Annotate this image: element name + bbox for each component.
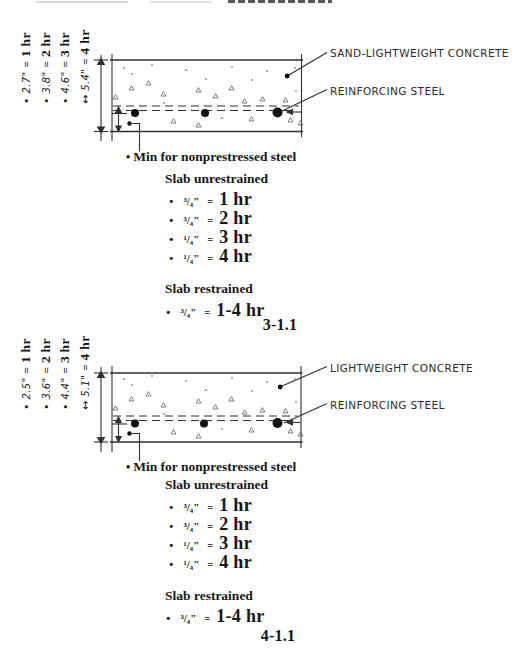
leader-cover-note bbox=[127, 121, 139, 151]
equals-sign: = bbox=[40, 61, 52, 67]
bullet: • bbox=[168, 520, 175, 533]
bullet: • bbox=[168, 501, 175, 514]
cover-note: •Min for nonprestressed steel bbox=[126, 459, 296, 475]
thickness-rating-rotated: • 3.8" = 2 hr bbox=[38, 12, 53, 104]
figure-number: 3-1.1 bbox=[250, 316, 310, 334]
cover-rating-item: • ¹/₄" = 3 hr bbox=[168, 227, 252, 247]
rebar-dots bbox=[131, 418, 283, 428]
equals-sign: = bbox=[207, 234, 213, 245]
unrestrained-heading: Slab unrestrained bbox=[165, 477, 268, 493]
restrained-heading: Slab restrained bbox=[165, 588, 253, 604]
thickness-value: 3.6" bbox=[41, 377, 52, 399]
fire-rating: 4 hr bbox=[77, 336, 93, 361]
equals-sign: = bbox=[207, 196, 213, 207]
header-fragment bbox=[36, 1, 128, 3]
cover-value: ³/₄" bbox=[184, 501, 200, 513]
cover-value: ³/₄" bbox=[184, 214, 200, 226]
bullet: • bbox=[59, 98, 72, 105]
fire-rating: 1 hr bbox=[219, 189, 252, 210]
slab-section-drawing bbox=[88, 358, 333, 470]
thickness-value: 3.8" bbox=[41, 71, 52, 93]
cover-note-text: Min for nonprestressed steel bbox=[133, 149, 296, 164]
dimension-line bbox=[94, 367, 108, 452]
slab-outline bbox=[110, 366, 303, 452]
equals-sign: = bbox=[204, 613, 210, 624]
bullet: • bbox=[168, 233, 175, 246]
cover-rating-item: • ³/₄" = 1-4 hr bbox=[165, 606, 265, 626]
equals-sign: = bbox=[20, 367, 32, 373]
aggregate-texture bbox=[113, 64, 303, 127]
bullet: • bbox=[20, 98, 33, 105]
leader-steel bbox=[284, 404, 327, 425]
leader-concrete bbox=[278, 367, 327, 390]
bullet: • bbox=[126, 460, 130, 474]
bullet: • bbox=[168, 539, 175, 552]
cover-rating-item: • ¹/₄" = 4 hr bbox=[168, 552, 252, 572]
reinforcing-steel-label: REINFORCING STEEL bbox=[330, 399, 445, 411]
bullet: • bbox=[168, 252, 175, 265]
thickness-value: 4.4" bbox=[60, 377, 71, 399]
equals-sign: = bbox=[59, 61, 71, 67]
fire-rating: 2 hr bbox=[38, 338, 54, 363]
equals-sign: = bbox=[207, 253, 213, 264]
rebar-dots bbox=[131, 108, 283, 118]
fire-rating: 4 hr bbox=[219, 552, 252, 573]
fire-rating: 2 hr bbox=[219, 208, 252, 229]
restrained-heading: Slab restrained bbox=[165, 281, 253, 297]
aggregate-texture bbox=[113, 375, 303, 438]
bullet: • bbox=[126, 150, 130, 164]
cover-value: ³/₄" bbox=[181, 612, 197, 624]
fire-rating: 1 hr bbox=[18, 32, 34, 57]
cover-value: ¹/₄" bbox=[184, 233, 200, 245]
bullet: • bbox=[165, 612, 172, 625]
bullet: • bbox=[168, 558, 175, 571]
leader-cover-note bbox=[127, 431, 139, 461]
figure-number: 4-1.1 bbox=[248, 627, 308, 645]
bullet: • bbox=[168, 195, 175, 208]
equals-sign: = bbox=[40, 367, 52, 373]
equals-sign: = bbox=[20, 61, 32, 67]
header-fragment bbox=[228, 0, 332, 3]
slab-section-drawing bbox=[88, 46, 333, 158]
equals-sign: = bbox=[207, 521, 213, 532]
cover-value: ³/₄" bbox=[181, 306, 197, 318]
material-label: SAND-LIGHTWEIGHT CONCRETE bbox=[330, 47, 509, 59]
thickness-value: 2.7" bbox=[21, 71, 32, 93]
unrestrained-heading: Slab unrestrained bbox=[165, 171, 268, 187]
cover-rating-item: • ¹/₄" = 3 hr bbox=[168, 533, 252, 553]
equals-sign: = bbox=[207, 540, 213, 551]
cover-value: ¹/₄" bbox=[184, 558, 200, 570]
thickness-value: 4.6" bbox=[60, 71, 71, 93]
fire-rating: 1 hr bbox=[219, 495, 252, 516]
equals-sign: = bbox=[207, 559, 213, 570]
equals-sign: = bbox=[207, 215, 213, 226]
fire-rating: 4 hr bbox=[219, 246, 252, 267]
bullet: • bbox=[40, 98, 53, 105]
thickness-rating-rotated: • 4.6" = 3 hr bbox=[57, 12, 72, 104]
fire-rating: 2 hr bbox=[219, 514, 252, 535]
cover-note: •Min for nonprestressed steel bbox=[126, 149, 296, 165]
thickness-value: 2.5" bbox=[21, 377, 32, 399]
cover-rating-item: • ¹/₄" = 4 hr bbox=[168, 246, 252, 266]
cover-rating-item: • ³/₄" = 2 hr bbox=[168, 208, 252, 228]
equals-sign: = bbox=[207, 502, 213, 513]
leader-concrete bbox=[285, 53, 327, 79]
equals-sign: = bbox=[59, 367, 71, 373]
thickness-rating-rotated: • 3.6" = 2 hr bbox=[38, 318, 53, 410]
bullet: • bbox=[168, 214, 175, 227]
fire-rating: 1-4 hr bbox=[216, 606, 264, 627]
cover-value: ¹/₄" bbox=[184, 539, 200, 551]
fire-rating: 3 hr bbox=[57, 338, 73, 363]
material-label: LIGHTWEIGHT CONCRETE bbox=[330, 362, 473, 374]
cover-rating-item: • ³/₄" = 1 hr bbox=[168, 189, 252, 209]
fire-rating: 3 hr bbox=[219, 227, 252, 248]
fire-rating: 2 hr bbox=[38, 32, 54, 57]
bullet: • bbox=[59, 404, 72, 411]
thickness-rating-rotated: • 2.5" = 1 hr bbox=[18, 318, 33, 410]
bullet: • bbox=[40, 404, 53, 411]
equals-sign: = bbox=[204, 307, 210, 318]
cover-value: ³/₄" bbox=[184, 520, 200, 532]
thickness-rating-rotated: • 4.4" = 3 hr bbox=[57, 318, 72, 410]
fire-rating: 3 hr bbox=[219, 533, 252, 554]
cover-value: ¹/₄" bbox=[184, 252, 200, 264]
